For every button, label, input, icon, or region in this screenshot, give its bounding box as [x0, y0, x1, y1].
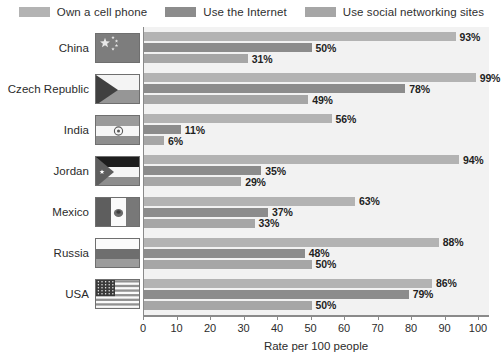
bar-group-czech-republic: 99%78%49%	[144, 68, 489, 109]
bar-india-series-2[interactable]: 6%	[144, 136, 183, 145]
x-tick-10	[177, 315, 178, 320]
x-tick-label-50: 50	[304, 322, 316, 334]
legend-item-label: Use social networking sites	[343, 6, 484, 18]
country-label: Mexico	[52, 206, 89, 218]
bar-usa-series-1[interactable]: 79%	[144, 290, 433, 299]
bar-value-label: 50%	[316, 42, 337, 54]
legend-item-label: Use the Internet	[203, 6, 286, 18]
bar-mexico-series-1[interactable]: 37%	[144, 208, 293, 217]
x-tick-50	[311, 315, 312, 320]
bar-rect	[144, 43, 312, 52]
bar-jordan-series-0[interactable]: 94%	[144, 155, 484, 164]
x-axis-title: Rate per 100 people	[143, 340, 489, 352]
bar-rect	[144, 177, 241, 186]
bar-russia-series-1[interactable]: 48%	[144, 249, 330, 258]
bar-value-label: 99%	[480, 72, 501, 84]
bar-rect	[144, 32, 456, 41]
flag-icon-jordan	[95, 156, 140, 186]
flag-icon-czech-republic	[95, 74, 140, 104]
bar-rect	[144, 73, 476, 82]
y-axis-row-india: India	[0, 109, 143, 150]
bar-rect	[144, 238, 439, 247]
bar-group-mexico: 63%37%33%	[144, 192, 489, 233]
bar-jordan-series-1[interactable]: 35%	[144, 166, 286, 175]
country-label: Jordan	[54, 165, 89, 177]
flag-icon-usa	[95, 279, 140, 309]
chart-legend: Own a cell phoneUse the InternetUse soci…	[0, 0, 503, 24]
x-tick-label-80: 80	[405, 322, 417, 334]
bar-rect	[144, 155, 459, 164]
bar-india-series-1[interactable]: 11%	[144, 125, 205, 134]
bar-rect	[144, 260, 312, 269]
bar-rect	[144, 301, 312, 310]
bar-rect	[144, 166, 261, 175]
bar-value-label: 86%	[436, 277, 457, 289]
bar-usa-series-2[interactable]: 50%	[144, 301, 336, 310]
bar-china-series-0[interactable]: 93%	[144, 32, 480, 41]
legend-item-2[interactable]: Use social networking sites	[305, 6, 484, 18]
flag-icon-china	[95, 33, 140, 63]
bar-rect	[144, 136, 164, 145]
country-label: China	[59, 42, 89, 54]
bar-china-series-1[interactable]: 50%	[144, 43, 336, 52]
bar-mexico-series-2[interactable]: 33%	[144, 219, 279, 228]
bar-rect	[144, 219, 255, 228]
bar-group-russia: 88%48%50%	[144, 233, 489, 274]
legend-swatch-own-cell-phone	[19, 7, 50, 17]
bar-value-label: 78%	[409, 83, 430, 95]
x-tick-label-30: 30	[237, 322, 249, 334]
country-label: India	[64, 124, 89, 136]
legend-item-0[interactable]: Own a cell phone	[19, 6, 147, 18]
bar-russia-series-0[interactable]: 88%	[144, 238, 464, 247]
bar-value-label: 35%	[265, 165, 286, 177]
bar-value-label: 33%	[259, 217, 280, 229]
y-axis-row-usa: USA	[0, 274, 143, 315]
country-label: Russia	[54, 247, 89, 259]
bar-india-series-0[interactable]: 56%	[144, 114, 356, 123]
x-tick-20	[210, 315, 211, 320]
bar-usa-series-0[interactable]: 86%	[144, 279, 457, 288]
flag-icon-mexico	[95, 197, 140, 227]
bar-china-series-2[interactable]: 31%	[144, 54, 273, 63]
bar-value-label: 93%	[460, 31, 481, 43]
bar-value-label: 94%	[463, 154, 484, 166]
bar-rect	[144, 84, 405, 93]
chart-area: 93%50%31%99%78%49%56%11%6%94%35%29%63%37…	[0, 24, 503, 358]
bar-rect	[144, 290, 409, 299]
y-axis-category-labels: ChinaCzech RepublicIndiaJordanMexicoRuss…	[0, 27, 143, 315]
bar-rect	[144, 279, 432, 288]
x-tick-30	[244, 315, 245, 320]
y-axis-row-russia: Russia	[0, 233, 143, 274]
x-tick-80	[411, 315, 412, 320]
bar-value-label: 6%	[168, 135, 183, 147]
bar-czech-republic-series-0[interactable]: 99%	[144, 73, 500, 82]
bar-mexico-series-0[interactable]: 63%	[144, 197, 380, 206]
x-tick-label-20: 20	[204, 322, 216, 334]
x-tick-70	[378, 315, 379, 320]
x-axis-line	[143, 315, 489, 317]
bar-value-label: 31%	[252, 53, 273, 65]
y-axis-row-czech-republic: Czech Republic	[0, 68, 143, 109]
legend-item-1[interactable]: Use the Internet	[165, 6, 286, 18]
legend-item-label: Own a cell phone	[57, 6, 147, 18]
bar-group-usa: 86%79%50%	[144, 274, 489, 315]
bar-value-label: 63%	[359, 195, 380, 207]
country-label: Czech Republic	[8, 83, 89, 95]
bar-russia-series-2[interactable]: 50%	[144, 260, 336, 269]
bar-group-china: 93%50%31%	[144, 27, 489, 68]
bar-jordan-series-2[interactable]: 29%	[144, 177, 266, 186]
x-tick-90	[445, 315, 446, 320]
flag-icon-india	[95, 115, 140, 145]
x-tick-label-40: 40	[271, 322, 283, 334]
country-label: USA	[65, 288, 89, 300]
flag-icon-russia	[95, 238, 140, 268]
bar-value-label: 50%	[316, 299, 337, 311]
bar-value-label: 49%	[312, 94, 333, 106]
bar-czech-republic-series-1[interactable]: 78%	[144, 84, 430, 93]
bar-value-label: 50%	[316, 258, 337, 270]
bar-rect	[144, 125, 181, 134]
bar-group-india: 56%11%6%	[144, 109, 489, 150]
bar-rect	[144, 114, 332, 123]
bar-czech-republic-series-2[interactable]: 49%	[144, 95, 333, 104]
y-axis-row-jordan: Jordan	[0, 150, 143, 191]
